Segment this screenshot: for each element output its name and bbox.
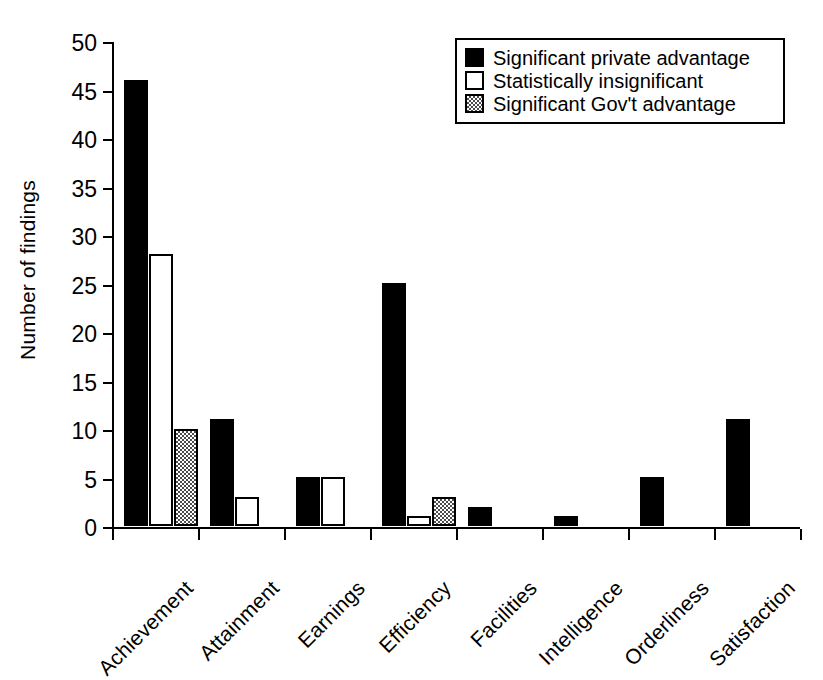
- bar: [554, 516, 578, 526]
- x-category-label: Intelligence: [534, 576, 628, 670]
- y-tick-label: 15: [71, 369, 97, 396]
- legend-item: Significant Gov't advantage: [465, 92, 775, 115]
- bar: [174, 429, 198, 526]
- x-category-label: Achievement: [94, 576, 198, 680]
- y-tick-mark: [103, 188, 112, 190]
- legend-item: Statistically insignificant: [465, 69, 775, 92]
- x-tick-mark: [370, 529, 372, 540]
- chart-legend: Significant private advantageStatistical…: [455, 38, 785, 124]
- bar: [407, 516, 431, 526]
- y-tick-mark: [103, 91, 112, 93]
- y-tick-label: 25: [71, 272, 97, 299]
- x-tick-mark: [714, 529, 716, 540]
- x-tick-mark: [198, 529, 200, 540]
- bar: [640, 477, 664, 526]
- bar: [726, 419, 750, 526]
- legend-swatch-icon: [465, 94, 484, 113]
- y-tick-label: 35: [71, 175, 97, 202]
- legend-item: Significant private advantage: [465, 46, 775, 69]
- y-tick-mark: [103, 285, 112, 287]
- y-tick-label: 45: [71, 78, 97, 105]
- bar: [149, 254, 173, 526]
- x-tick-mark: [800, 529, 802, 540]
- bar: [210, 419, 234, 526]
- x-tick-mark: [456, 529, 458, 540]
- y-axis-title: Number of findings: [0, 0, 56, 540]
- x-tick-mark: [542, 529, 544, 540]
- x-category-label: Earnings: [293, 576, 370, 653]
- bar: [321, 477, 345, 526]
- x-tick-mark: [284, 529, 286, 540]
- y-tick-label: 20: [71, 321, 97, 348]
- y-tick-mark: [103, 139, 112, 141]
- legend-swatch-icon: [465, 48, 484, 67]
- y-tick-mark: [103, 382, 112, 384]
- x-tick-mark: [628, 529, 630, 540]
- y-tick-mark: [103, 333, 112, 335]
- y-tick-mark: [103, 479, 112, 481]
- y-tick-label: 5: [84, 466, 97, 493]
- bar: [382, 283, 406, 526]
- bar: [124, 80, 148, 526]
- x-category-label: Facilities: [466, 576, 542, 652]
- bar: [235, 497, 259, 526]
- bar: [296, 477, 320, 526]
- bar: [432, 497, 456, 526]
- y-tick-mark: [103, 42, 112, 44]
- y-tick-label: 30: [71, 224, 97, 251]
- legend-item-label: Significant private advantage: [493, 48, 750, 68]
- y-tick-mark: [103, 527, 112, 529]
- x-tick-mark: [112, 529, 114, 540]
- x-category-label: Efficiency: [374, 576, 456, 658]
- bar-chart-figure: Number of findings 05101520253035404550 …: [0, 0, 823, 680]
- legend-item-label: Statistically insignificant: [493, 71, 703, 91]
- x-category-label: Attainment: [195, 576, 284, 665]
- y-tick-mark: [103, 236, 112, 238]
- y-axis-title-text: Number of findings: [16, 180, 40, 360]
- x-category-label: Orderliness: [620, 576, 714, 670]
- y-tick-label: 0: [84, 515, 97, 542]
- y-tick-label: 50: [71, 30, 97, 57]
- y-axis-line: [112, 42, 114, 529]
- legend-swatch-icon: [465, 71, 484, 90]
- x-category-label: Satisfaction: [705, 576, 800, 671]
- y-tick-label: 10: [71, 418, 97, 445]
- y-tick-label: 40: [71, 127, 97, 154]
- legend-item-label: Significant Gov't advantage: [493, 94, 736, 114]
- y-tick-mark: [103, 430, 112, 432]
- bar: [468, 507, 492, 526]
